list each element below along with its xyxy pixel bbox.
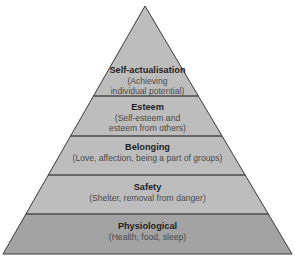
level-description: esteem from others) [0, 123, 295, 134]
level-safety: Safety (Shelter, removal from danger) [0, 182, 295, 203]
level-title: Belonging [0, 142, 295, 153]
level-description: (Shelter, removal from danger) [0, 193, 295, 204]
level-description: (Health, food, sleep) [0, 232, 295, 243]
level-physiological: Physiological (Health, food, sleep) [0, 221, 295, 242]
level-esteem: Esteem (Self-esteem and esteem from othe… [0, 102, 295, 134]
level-title: Physiological [0, 221, 295, 232]
level-description: (Self-esteem and [0, 113, 295, 124]
level-belonging: Belonging (Love, affection, being a part… [0, 142, 295, 163]
level-description: (Love, affection, being a part of groups… [0, 153, 295, 164]
level-description: (Achieving [0, 76, 295, 87]
level-title: Esteem [0, 102, 295, 113]
level-title: Safety [0, 182, 295, 193]
level-title: Self-actualisation [0, 65, 295, 76]
level-self-actualisation: Self-actualisation (Achieving individual… [0, 65, 295, 97]
level-description: individual potential) [0, 86, 295, 97]
